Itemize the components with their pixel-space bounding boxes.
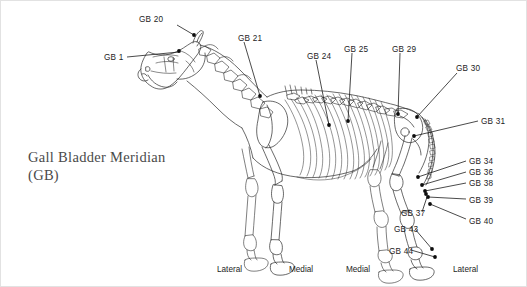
acupoint-label-gb-37: GB 37 bbox=[401, 210, 425, 218]
title-line-1: Gall Bladder Meridian bbox=[28, 149, 218, 167]
acupoint-label-gb-38: GB 38 bbox=[469, 180, 493, 188]
orientation-label-medial-1: Medial bbox=[289, 266, 313, 274]
acupoint-label-gb-24: GB 24 bbox=[307, 53, 331, 61]
acupoint-label-gb-31: GB 31 bbox=[481, 118, 505, 126]
gall-bladder-meridian-chart: Gall Bladder Meridian (GB) GB 20GB 1GB 2… bbox=[0, 0, 527, 287]
acupoint-label-gb-39: GB 39 bbox=[469, 197, 493, 205]
title-line-2: (GB) bbox=[28, 167, 218, 185]
acupoint-label-gb-40: GB 40 bbox=[469, 218, 493, 226]
acupoint-label-gb-21: GB 21 bbox=[238, 35, 262, 43]
acupoint-label-gb-1: GB 1 bbox=[104, 54, 123, 62]
acupoint-label-gb-25: GB 25 bbox=[344, 46, 368, 54]
orientation-label-lateral-3: Lateral bbox=[453, 266, 478, 274]
acupoint-label-gb-30: GB 30 bbox=[456, 65, 480, 73]
orientation-label-lateral-0: Lateral bbox=[217, 266, 242, 274]
acupoint-label-gb-29: GB 29 bbox=[392, 46, 416, 54]
page-title: Gall Bladder Meridian (GB) bbox=[28, 149, 218, 184]
orientation-label-medial-2: Medial bbox=[346, 266, 370, 274]
acupoint-label-gb-36: GB 36 bbox=[469, 169, 493, 177]
acupoint-label-gb-44: GB 44 bbox=[389, 248, 413, 256]
acupoint-label-gb-20: GB 20 bbox=[139, 16, 163, 24]
acupoint-label-gb-34: GB 34 bbox=[469, 158, 493, 166]
acupoint-label-gb-43: GB 43 bbox=[394, 226, 418, 234]
labels-layer: Gall Bladder Meridian (GB) GB 20GB 1GB 2… bbox=[1, 1, 527, 287]
